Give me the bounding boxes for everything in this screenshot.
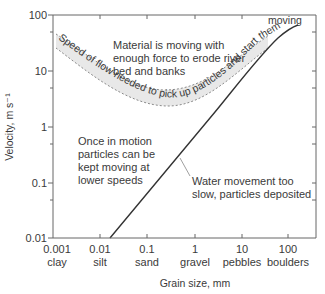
y-tick-100: 100 xyxy=(29,9,47,21)
x-tick-0.1: 0.1 xyxy=(139,243,154,255)
x-tick-0.001-class: clay xyxy=(47,256,67,268)
motion-line-4: lower speeds xyxy=(78,174,143,186)
erode-line-1: Material is moving with xyxy=(113,39,224,51)
x-tick-10: 10 xyxy=(236,243,248,255)
x-tick-1: 1 xyxy=(192,243,198,255)
motion-line-1: Once in motion xyxy=(78,135,152,147)
x-tick-100-class: boulders xyxy=(267,256,310,268)
y-tick-labels: 100 10 1 0.1 0.01 xyxy=(26,9,47,244)
erode-line-2: enough force to erode river xyxy=(113,52,245,64)
annotation-in-motion: Once in motion particles can be kept mov… xyxy=(78,135,155,186)
x-tick-100: 100 xyxy=(279,243,297,255)
deposited-line-1: Water movement too xyxy=(192,175,294,187)
motion-line-2: particles can be xyxy=(78,148,155,160)
x-tick-0.01-class: silt xyxy=(93,256,106,268)
y-axis-title: Velocity, m s⁻¹ xyxy=(3,93,15,161)
deposition-leader xyxy=(180,158,190,176)
x-tick-0.1-class: sand xyxy=(135,256,159,268)
deposited-line-2: slow, particles deposited xyxy=(192,188,311,200)
x-tick-0.001: 0.001 xyxy=(43,243,71,255)
x-tick-labels: 0.001 clay 0.01 silt 0.1 sand 1 gravel 1… xyxy=(43,243,309,268)
annotation-deposited: Water movement too slow, particles depos… xyxy=(192,175,311,200)
motion-line-3: kept moving at xyxy=(78,161,150,173)
y-tick-0.1: 0.1 xyxy=(32,177,47,189)
erode-line-3: bed and banks xyxy=(113,65,186,77)
band-label-tail: moving xyxy=(268,14,302,26)
y-tick-10: 10 xyxy=(35,65,47,77)
x-axis-title: Grain size, mm xyxy=(160,277,231,289)
y-tick-1: 1 xyxy=(41,121,47,133)
chart: Speed of flow needed to pick up particle… xyxy=(0,0,325,294)
x-tick-1-class: gravel xyxy=(180,256,210,268)
x-tick-0.01: 0.01 xyxy=(89,243,110,255)
x-tick-10-class: pebbles xyxy=(223,256,262,268)
